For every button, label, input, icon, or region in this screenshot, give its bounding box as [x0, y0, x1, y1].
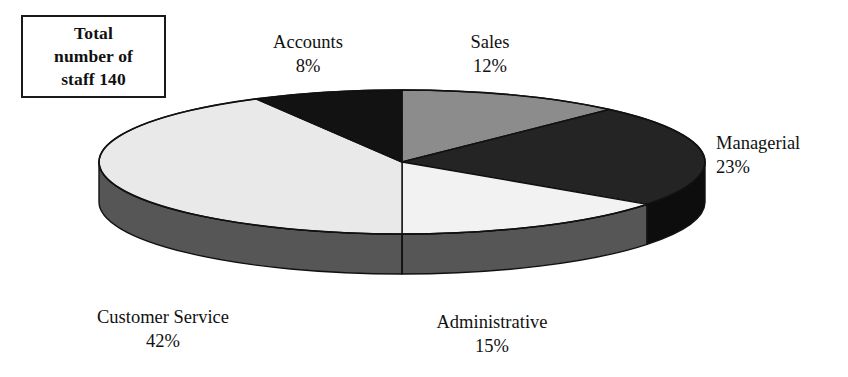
slice-label-sales-name: Sales — [415, 30, 565, 54]
slice-label-sales-value: 12% — [415, 54, 565, 78]
pie-chart-figure: Total number of staff 140 Accounts 8% Sa… — [0, 0, 848, 377]
slice-label-accounts-name: Accounts — [228, 30, 388, 54]
slice-label-managerial-value: 23% — [716, 155, 846, 179]
slice-label-customer-service: Customer Service 42% — [48, 305, 278, 354]
slice-label-accounts: Accounts 8% — [228, 30, 388, 79]
slice-label-customer-service-value: 42% — [48, 329, 278, 353]
slice-label-customer-service-name: Customer Service — [48, 305, 278, 329]
slice-label-administrative: Administrative 15% — [392, 310, 592, 359]
slice-label-accounts-value: 8% — [228, 54, 388, 78]
slice-label-administrative-value: 15% — [392, 334, 592, 358]
slice-label-managerial: Managerial 23% — [716, 131, 846, 180]
slice-label-managerial-name: Managerial — [716, 131, 846, 155]
slice-label-administrative-name: Administrative — [392, 310, 592, 334]
slice-label-sales: Sales 12% — [415, 30, 565, 79]
